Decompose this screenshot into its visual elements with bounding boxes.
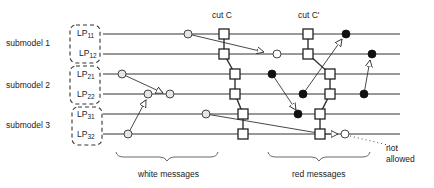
diagram-canvas [0,0,434,188]
message-red [364,60,370,94]
message-red [303,39,342,94]
message-red [272,74,296,110]
cut-c-label: cut C [212,10,232,20]
submodel-label: submodel 2 [6,80,50,90]
cut-c-prime-label: cut C' [298,10,319,20]
allowed-label: allowed [386,154,415,164]
white-events [118,30,349,138]
process-label-lp11: LP11 [77,28,94,39]
submodel-boxes [70,25,102,145]
braces [116,152,370,161]
red-messages-label: red messages [292,169,345,179]
message-white [128,100,146,134]
process-label-lp12: LP12 [79,48,97,59]
not-label: not [386,143,398,153]
red-messages-brace [268,152,370,161]
white-messages-brace [116,152,218,161]
process-label-lp31: LP31 [77,109,95,120]
submodel-label: submodel 1 [6,38,50,48]
submodel-label: submodel 3 [6,120,50,130]
white-messages-label: white messages [138,169,199,179]
messages [122,34,400,148]
process-label-lp21: LP21 [77,69,95,80]
process-label-lp32: LP32 [77,129,95,140]
process-label-lp22: LP22 [77,89,95,100]
message-white [122,74,163,93]
